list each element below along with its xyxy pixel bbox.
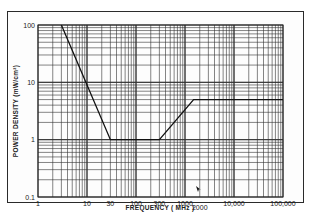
y-tick-label: 1 — [31, 136, 35, 143]
power-density-chart: 110301003001000200010,000100,000 0.11101… — [0, 0, 314, 213]
y-tick-label: 10 — [27, 79, 35, 86]
x-tick-label: 1 — [36, 200, 40, 207]
x-axis-label: FREQUENCY ( MHz ) — [126, 204, 195, 212]
y-tick-labels: 0.1110100 — [23, 22, 35, 201]
x-tick-label: 30 — [106, 200, 114, 207]
y-tick-label: 100 — [23, 22, 35, 29]
x-tick-label: 100,000 — [270, 200, 295, 207]
y-tick-label: 0.1 — [25, 194, 35, 201]
marker-arrow-icon — [196, 186, 201, 192]
grid-lines — [38, 25, 283, 197]
x-tick-label: 10,000 — [223, 200, 245, 207]
x-tick-label: 10 — [83, 200, 91, 207]
plot-area-border — [38, 25, 283, 197]
y-axis-label: POWER DENSITY (mW/cm²) — [12, 65, 20, 157]
